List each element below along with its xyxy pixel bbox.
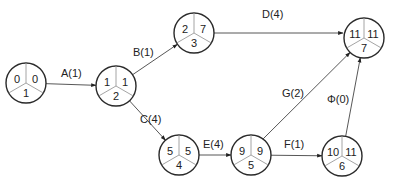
edge-label: B(1)	[133, 46, 154, 58]
edge-d4: D(4)	[214, 8, 343, 33]
edge-arrow	[271, 155, 322, 156]
edge-label: A(1)	[61, 67, 82, 79]
edge-c4: C(4)	[129, 101, 165, 140]
node-number: 2	[113, 90, 119, 102]
node-latest-time: 0	[32, 73, 38, 85]
node-earliest-time: 2	[182, 23, 188, 35]
node-number: 1	[23, 87, 29, 99]
node-earliest-time: 5	[167, 145, 173, 157]
node-number: 5	[248, 159, 254, 171]
edge-f1: F(1)	[271, 138, 322, 156]
node-7: 11117	[344, 18, 384, 58]
node-3: 273	[174, 13, 214, 53]
node-earliest-time: 11	[349, 28, 360, 40]
node-number: 3	[191, 37, 197, 49]
edge-e4: E(4)	[199, 138, 231, 155]
node-5: 995	[231, 135, 271, 175]
node-6: 10116	[322, 136, 362, 176]
edge-b1: B(1)	[133, 44, 178, 75]
edge-arrow	[46, 84, 96, 86]
node-latest-time: 7	[200, 23, 206, 35]
edge-label: D(4)	[262, 8, 283, 20]
node-latest-time: 9	[257, 145, 263, 157]
node-4: 554	[159, 135, 199, 175]
node-earliest-time: 10	[327, 146, 339, 158]
edge-label: Φ(0)	[327, 93, 349, 105]
node-earliest-time: 1	[104, 76, 110, 88]
node-number: 4	[176, 159, 182, 171]
edge-label: C(4)	[140, 113, 161, 125]
node-number: 6	[339, 160, 345, 172]
edge-label: G(2)	[282, 87, 304, 99]
network-diagram: A(1)B(1)C(4)D(4)E(4)F(1)G(2)Φ(0) 0011122…	[0, 0, 397, 186]
node-latest-time: 11	[345, 146, 356, 158]
node-1: 001	[6, 63, 46, 103]
edge-φ0: Φ(0)	[327, 58, 360, 137]
node-latest-time: 11	[367, 28, 378, 40]
node-number: 7	[361, 42, 367, 54]
node-latest-time: 1	[122, 76, 128, 88]
node-2: 112	[96, 66, 136, 106]
edge-label: F(1)	[284, 138, 304, 150]
edge-a1: A(1)	[46, 67, 96, 85]
node-latest-time: 5	[185, 145, 191, 157]
node-earliest-time: 0	[14, 73, 20, 85]
node-earliest-time: 9	[239, 145, 245, 157]
edge-label: E(4)	[203, 138, 224, 150]
